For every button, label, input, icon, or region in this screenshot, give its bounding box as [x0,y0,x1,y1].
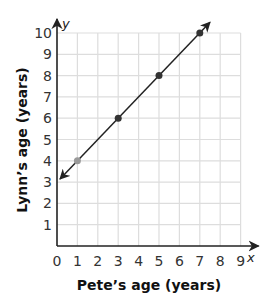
y-axis-variable: y [61,16,70,31]
data-point [115,115,122,122]
data-line [60,22,210,179]
y-tick-label: 10 [34,25,52,41]
x-tick-label: 8 [216,253,225,269]
tick-labels: 012345678912345678910 [34,25,245,269]
x-tick-label: 4 [134,253,143,269]
x-axis-title: Pete’s age (years) [77,277,221,293]
x-tick-label: 5 [155,253,164,269]
x-axis-variable: x [246,250,255,265]
x-tick-label: 6 [175,253,184,269]
data-point [74,157,81,164]
y-tick-label: 3 [43,174,52,190]
y-tick-label: 8 [43,68,52,84]
y-tick-label: 5 [43,132,52,148]
x-tick-label: 9 [236,253,245,269]
y-tick-label: 6 [43,110,52,126]
axes [57,19,259,246]
grid-lines [57,33,241,246]
y-tick-label: 1 [43,217,52,233]
line-chart: 012345678912345678910 y x Pete’s age (ye… [0,0,271,304]
x-tick-label: 3 [114,253,123,269]
data-point [156,72,163,79]
trend-line [60,22,210,179]
y-tick-label: 4 [43,153,52,169]
y-axis-title: Lynn’s age (years) [14,67,30,213]
x-tick-label: 1 [73,253,82,269]
x-tick-label: 2 [93,253,102,269]
x-tick-label: 0 [53,253,62,269]
data-point [196,30,203,37]
y-tick-label: 7 [43,89,52,105]
x-tick-label: 7 [195,253,204,269]
y-tick-label: 9 [43,46,52,62]
y-tick-label: 2 [43,195,52,211]
